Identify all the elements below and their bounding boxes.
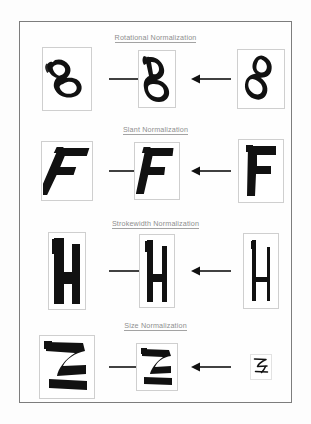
glyph-box-b-rotated-cw <box>42 47 92 111</box>
section-slant: Slant Normalization <box>20 124 291 207</box>
arrow-right-to-center-slant <box>188 135 234 207</box>
arrow-right-to-center-size <box>188 331 234 403</box>
glyph-cell-center-strokewidth <box>126 229 188 313</box>
glyph-z-small <box>252 356 270 378</box>
glyph-f-slanted <box>43 143 91 199</box>
glyph-box-f-slanted <box>41 141 93 201</box>
glyph-b-rotated-cw <box>44 49 90 109</box>
arrow-right-to-center-rotational <box>188 43 234 115</box>
figure-frame: Rotational Normalization <box>19 21 292 403</box>
section-title-strokewidth: Strokewidth Normalization <box>20 218 291 229</box>
glyph-cell-left-rotational <box>28 43 106 115</box>
glyph-b-normalized <box>140 52 174 106</box>
glyph-f-normalized <box>136 144 178 198</box>
arrow-left-icon <box>190 361 232 373</box>
glyph-box-h-normalized <box>139 234 175 308</box>
glyph-cell-left-size <box>28 331 106 403</box>
glyph-cell-right-strokewidth <box>230 229 292 313</box>
arrow-left-icon <box>190 265 232 277</box>
arrow-left-icon <box>190 73 232 85</box>
glyph-cell-right-size <box>230 331 292 403</box>
glyph-cell-center-slant <box>126 135 188 207</box>
glyph-b-rotated-ccw <box>239 51 283 107</box>
section-title-rotational: Rotational Normalization <box>20 32 291 43</box>
example-row-rotational <box>20 43 291 115</box>
glyph-box-z-large <box>39 335 95 399</box>
glyph-z-normalized <box>138 345 176 389</box>
glyph-cell-right-slant <box>230 135 292 207</box>
glyph-h-thin <box>245 235 277 307</box>
glyph-box-f-upright <box>238 139 284 203</box>
section-rotational: Rotational Normalization <box>20 32 291 115</box>
example-row-slant <box>20 135 291 207</box>
glyph-cell-center-size <box>126 331 188 403</box>
glyph-h-thick <box>50 234 84 308</box>
arrow-left-icon <box>190 165 232 177</box>
glyph-box-b-rotated-ccw <box>237 49 285 109</box>
glyph-box-h-thin <box>243 233 279 309</box>
section-title-slant: Slant Normalization <box>20 124 291 135</box>
example-row-strokewidth <box>20 229 291 313</box>
glyph-cell-center-rotational <box>126 43 188 115</box>
glyph-box-f-normalized <box>134 142 180 200</box>
section-title-size: Size Normalization <box>20 320 291 331</box>
example-row-size <box>20 331 291 403</box>
section-strokewidth: Strokewidth Normalization <box>20 218 291 313</box>
glyph-h-normalized <box>141 236 173 306</box>
section-size: Size Normalization <box>20 320 291 403</box>
glyph-box-z-normalized <box>136 343 178 391</box>
glyph-cell-left-slant <box>28 135 106 207</box>
glyph-box-z-small <box>250 354 272 380</box>
glyph-f-upright <box>240 141 282 201</box>
arrow-right-to-center-strokewidth <box>188 229 234 313</box>
glyph-box-b-normalized <box>138 50 176 108</box>
glyph-z-large <box>41 337 93 397</box>
glyph-cell-right-rotational <box>230 43 292 115</box>
glyph-box-h-thick <box>48 232 86 310</box>
glyph-cell-left-strokewidth <box>28 229 106 313</box>
